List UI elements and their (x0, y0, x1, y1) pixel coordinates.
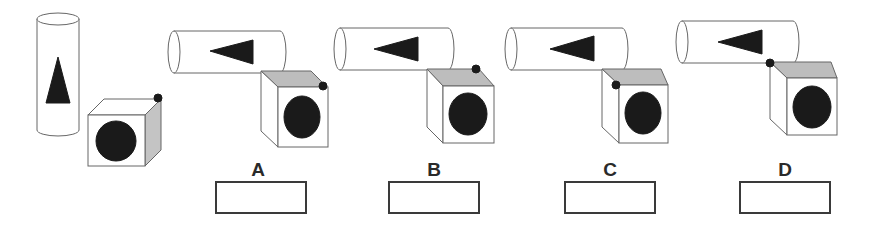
circle-icon (793, 86, 831, 128)
circle-icon (625, 92, 661, 134)
dot-icon (154, 94, 162, 102)
circle-icon (96, 121, 136, 161)
option-c-figure (505, 28, 668, 143)
answer-box-b[interactable] (388, 181, 480, 214)
reference-cube (88, 94, 162, 166)
option-b-figure (334, 28, 494, 143)
option-a-figure (168, 31, 328, 147)
dot-icon (766, 59, 774, 67)
answer-box-c[interactable] (564, 181, 656, 214)
circle-icon (449, 93, 487, 135)
option-label-b: B (419, 159, 449, 181)
dot-icon (612, 81, 620, 89)
reference-cylinder (37, 13, 79, 136)
circle-icon (284, 96, 320, 138)
dot-icon (319, 82, 327, 90)
dot-icon (472, 65, 480, 73)
answer-box-d[interactable] (739, 181, 831, 214)
option-label-d: D (770, 159, 800, 181)
option-label-a: A (243, 159, 273, 181)
answer-box-a[interactable] (215, 181, 307, 214)
option-label-c: C (595, 159, 625, 181)
option-d-figure (676, 21, 837, 135)
